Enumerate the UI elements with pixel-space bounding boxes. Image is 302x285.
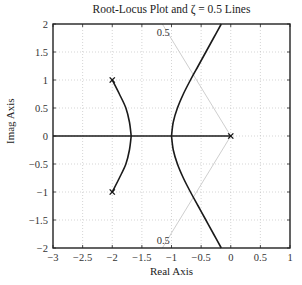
- y-tick-label: 0: [43, 131, 48, 142]
- x-tick-label: −2.5: [73, 252, 92, 263]
- x-tick-label: −3: [47, 252, 58, 263]
- y-tick-label: −1: [37, 187, 48, 198]
- x-tick-label: −1: [166, 252, 177, 263]
- x-tick-label: −0.5: [192, 252, 211, 263]
- x-tick-label: 1: [287, 252, 292, 263]
- zeta-annotation-label: 0.5: [157, 235, 170, 246]
- y-tick-label: 2: [43, 19, 48, 30]
- root-locus-plot: 0.50.5−3−2.5−2−1.5−1−0.500.5121.510.50−0…: [0, 0, 302, 285]
- y-tick-label: −2: [37, 243, 48, 254]
- zeta-0.5-line-lower: [162, 136, 230, 248]
- y-tick-label: 1: [43, 75, 48, 86]
- zeta-annotation-label: 0.5: [157, 27, 170, 38]
- y-tick-label: −1.5: [29, 215, 48, 226]
- zeta-0.5-line-upper: [162, 24, 230, 136]
- x-tick-label: −2: [107, 252, 118, 263]
- x-tick-label: −1.5: [132, 252, 151, 263]
- x-tick-label: 0: [228, 252, 233, 263]
- y-tick-label: 1.5: [35, 47, 48, 58]
- y-tick-label: −0.5: [29, 159, 48, 170]
- x-tick-label: 0.5: [254, 252, 267, 263]
- y-tick-label: 0.5: [35, 103, 48, 114]
